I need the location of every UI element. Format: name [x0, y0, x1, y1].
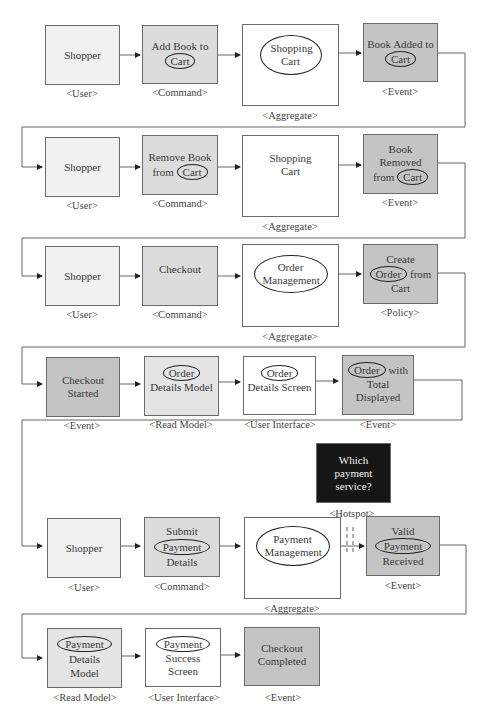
circled-term: Order [261, 365, 299, 381]
circled-term: Order [348, 362, 386, 378]
type-label: <Policy> [381, 307, 420, 318]
circled-term: Payment [156, 636, 211, 652]
type-label: <Aggregate> [262, 110, 318, 121]
note-command-add-book[interactable]: Add Book to Cart [142, 25, 218, 84]
note-user-shopper[interactable]: Shopper [45, 246, 120, 306]
note-text: PaymentDetails Model [52, 634, 118, 682]
note-aggregate-shopping-cart[interactable]: Shopping Cart [242, 135, 339, 217]
note-text: CreateOrder from Cart [367, 251, 435, 297]
note-text-pre: Valid [391, 525, 414, 537]
note-text-post: Success Screen [166, 652, 201, 677]
circled-term: Order [163, 365, 201, 381]
type-label: <Event> [360, 419, 396, 430]
type-label: <Command> [152, 309, 208, 320]
note-ui-order-details-screen[interactable]: Order Details Screen [243, 356, 316, 415]
type-label: <Aggregate> [262, 221, 318, 232]
note-text-post: Details Screen [248, 381, 312, 393]
note-text-post: Details [166, 556, 197, 568]
note-text-pre: Create [386, 253, 415, 265]
circled-term: Payment [154, 539, 211, 555]
note-text-post: Details Model [69, 653, 100, 679]
note-ui-payment-success-screen[interactable]: PaymentSuccess Screen [145, 628, 221, 687]
note-text-pre: Submit [166, 525, 198, 537]
type-label: <Event> [385, 580, 421, 591]
circled-term: Payment [57, 636, 112, 652]
note-text: PaymentSuccess Screen [150, 634, 216, 680]
note-text: Which payment service? [326, 452, 382, 495]
note-read-model-payment-details[interactable]: PaymentDetails Model [47, 628, 122, 688]
note-text: Book Removed from Cart [368, 141, 434, 187]
note-aggregate-order-management[interactable]: Order Management [242, 244, 339, 327]
note-text: Checkout Started [55, 372, 111, 402]
note-text: Checkout Completed [249, 640, 315, 670]
type-label: <Command> [152, 87, 208, 98]
note-aggregate-shopping-cart[interactable]: Shopping Cart [242, 24, 339, 106]
note-text: Order with Total Displayed [343, 360, 413, 406]
note-text: Shopper [61, 159, 104, 176]
type-label: <User> [66, 200, 98, 211]
type-label: <Aggregate> [262, 331, 318, 342]
circled-term: Shopping Cart [260, 35, 322, 75]
circled-term: Cart [165, 53, 196, 69]
event-storming-diagram: Shopper <User> Add Book to Cart <Command… [0, 0, 487, 715]
circled-term: Cart [397, 169, 428, 185]
note-event-valid-payment[interactable]: ValidPaymentReceived [366, 516, 440, 576]
circled-term: Payment [375, 538, 432, 554]
note-command-remove-book[interactable]: Remove Book from Cart [142, 135, 218, 195]
type-label: <Read Model> [149, 419, 212, 430]
note-text: Order Details Screen [244, 363, 315, 396]
type-label: <Event> [265, 692, 301, 703]
note-text: ValidPaymentReceived [372, 522, 435, 570]
note-text: Shopper [63, 540, 106, 557]
type-label: <User Interface> [148, 692, 220, 703]
circled-term: Cart [385, 51, 416, 67]
note-text: SubmitPaymentDetails [151, 522, 214, 572]
type-label: <Event> [382, 86, 418, 97]
note-text: Checkout [156, 261, 204, 278]
note-user-shopper[interactable]: Shopper [47, 518, 121, 578]
note-text-post: Details Model [150, 381, 213, 393]
note-text: Shopper [61, 268, 104, 285]
type-label: <User> [66, 309, 98, 320]
note-event-book-removed[interactable]: Book Removed from Cart [363, 134, 438, 194]
note-event-order-total-displayed[interactable]: Order with Total Displayed [342, 355, 414, 415]
note-text: Order Details Model [145, 363, 218, 396]
note-text: Add Book to Cart [143, 38, 217, 71]
type-label: <Command> [152, 198, 208, 209]
note-text: Remove Book from Cart [143, 149, 217, 182]
type-label: <User Interface> [244, 419, 316, 430]
note-text: Shopper [61, 47, 104, 64]
note-aggregate-payment-management[interactable]: Payment Management [244, 517, 341, 599]
circled-term: Cart [177, 164, 208, 180]
note-text-pre: Book Added to [367, 38, 434, 50]
type-label: <Aggregate> [264, 603, 320, 614]
type-label: <Event> [382, 197, 418, 208]
note-hotspot-payment-service[interactable]: Which payment service? [316, 443, 391, 503]
note-event-checkout-started[interactable]: Checkout Started [46, 357, 120, 417]
type-label: <Command> [154, 581, 210, 592]
note-event-checkout-completed[interactable]: Checkout Completed [244, 627, 320, 686]
note-text: Book Added to Cart [364, 36, 437, 69]
note-policy-create-order[interactable]: CreateOrder from Cart [363, 244, 438, 304]
note-command-checkout[interactable]: Checkout [142, 246, 218, 306]
type-label: <User> [68, 582, 100, 593]
note-user-shopper[interactable]: Shopper [45, 25, 120, 85]
note-read-model-order-details[interactable]: Order Details Model [144, 356, 219, 416]
note-command-submit-payment[interactable]: SubmitPaymentDetails [144, 517, 220, 577]
circled-term: Order [370, 266, 408, 282]
type-label: <Read Model> [53, 692, 116, 703]
type-label: <Event> [64, 420, 100, 431]
circled-term: Order Management [254, 255, 328, 293]
note-text: Shopping Cart [263, 150, 319, 180]
note-text-post: Received [383, 555, 424, 567]
note-user-shopper[interactable]: Shopper [45, 137, 120, 197]
note-event-book-added[interactable]: Book Added to Cart [363, 23, 438, 82]
type-label: <User> [66, 88, 98, 99]
circled-term: Payment Management [256, 526, 330, 566]
note-text-pre: Add Book to [152, 40, 209, 52]
